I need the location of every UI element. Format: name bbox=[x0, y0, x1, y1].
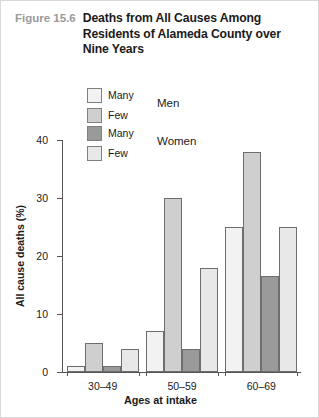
x-axis-group-label: 30–49 bbox=[88, 380, 117, 392]
x-axis-group-label: 50–59 bbox=[167, 380, 196, 392]
bar bbox=[85, 343, 103, 372]
legend-entry: Many bbox=[87, 125, 134, 141]
y-axis-line bbox=[62, 140, 63, 372]
x-axis-tick bbox=[67, 372, 68, 376]
y-axis-tick: 0 bbox=[57, 372, 62, 373]
bar bbox=[279, 227, 297, 372]
legend-label-men-few: Few bbox=[108, 108, 128, 123]
legend-group-men: Many Few Men bbox=[87, 87, 267, 125]
x-axis-tick bbox=[297, 372, 298, 376]
bar bbox=[200, 268, 218, 372]
legend-swatch-women-many bbox=[87, 126, 102, 141]
y-axis-tick: 20 bbox=[57, 256, 62, 257]
legend-swatch-men-many bbox=[87, 88, 102, 103]
x-axis-line bbox=[62, 372, 301, 373]
legend-entry: Many bbox=[87, 87, 134, 103]
x-axis-tick bbox=[146, 372, 147, 376]
legend-group-name-men: Men bbox=[157, 97, 179, 109]
bar bbox=[164, 198, 182, 372]
y-axis-tick-label: 30 bbox=[36, 192, 48, 204]
x-axis-tick bbox=[225, 372, 226, 376]
bar bbox=[261, 276, 279, 372]
x-axis-title: Ages at intake bbox=[1, 394, 319, 406]
y-axis-title: All cause deaths (%) bbox=[13, 140, 27, 372]
x-axis-tick bbox=[218, 372, 219, 376]
y-axis-title-text: All cause deaths (%) bbox=[14, 205, 26, 307]
figure-number: Figure 15.6 bbox=[15, 11, 76, 26]
plot-area: 01020304030–4950–5960–69 bbox=[63, 140, 301, 372]
figure-container: Figure 15.6 Deaths from All Causes Among… bbox=[0, 0, 319, 418]
x-axis-group-label: 60–69 bbox=[247, 380, 276, 392]
y-axis-tick: 40 bbox=[57, 140, 62, 141]
bar bbox=[121, 349, 139, 372]
bar bbox=[146, 331, 164, 372]
figure-title: Deaths from All Causes Among Residents o… bbox=[83, 11, 307, 58]
bar bbox=[182, 349, 200, 372]
x-axis-tick bbox=[139, 372, 140, 376]
y-axis-tick-label: 40 bbox=[36, 134, 48, 146]
legend-label-women-many: Many bbox=[108, 126, 134, 141]
y-axis-tick-label: 10 bbox=[36, 308, 48, 320]
y-axis-tick: 30 bbox=[57, 198, 62, 199]
figure-header: Figure 15.6 Deaths from All Causes Among… bbox=[15, 11, 307, 58]
legend-entry: Few bbox=[87, 107, 128, 123]
bar bbox=[67, 366, 85, 372]
legend-swatch-men-few bbox=[87, 108, 102, 123]
legend-label-men-many: Many bbox=[108, 88, 134, 103]
y-axis-tick: 10 bbox=[57, 314, 62, 315]
bar bbox=[225, 227, 243, 372]
y-axis-tick-label: 0 bbox=[42, 366, 48, 378]
y-axis-tick-label: 20 bbox=[36, 250, 48, 262]
bar bbox=[243, 152, 261, 372]
bar bbox=[103, 366, 121, 372]
